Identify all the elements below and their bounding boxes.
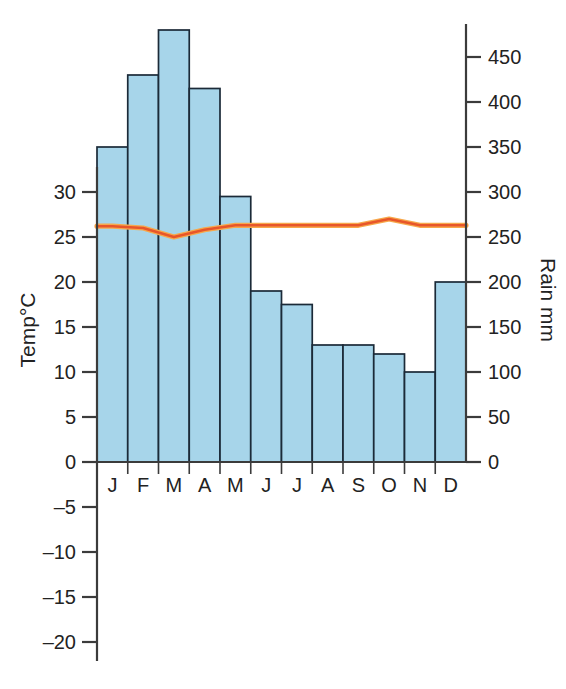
left-axis-tick-label: 10 [54, 361, 76, 383]
month-label: A [198, 474, 212, 496]
month-label: N [413, 474, 427, 496]
rain-bar [159, 30, 190, 462]
left-axis-tick-label: –15 [43, 586, 76, 608]
rain-bar [312, 345, 343, 462]
right-axis-tick-label: 450 [488, 46, 521, 68]
rain-bar [405, 372, 436, 462]
month-label: M [166, 474, 183, 496]
left-axis-tick-label: 20 [54, 271, 76, 293]
right-axis-tick-label: 250 [488, 226, 521, 248]
left-axis-title: Temp°C [16, 293, 39, 368]
right-axis-tick-label: 300 [488, 181, 521, 203]
rain-bar [128, 75, 159, 462]
rain-bar [97, 147, 128, 462]
month-label: J [107, 474, 117, 496]
rain-bar [435, 282, 466, 462]
left-axis-tick-label: 25 [54, 226, 76, 248]
rain-bar [189, 89, 220, 463]
right-axis-tick-label: 50 [488, 406, 510, 428]
chart-canvas: 302520151050–5–10–15–20 4504003503002502… [0, 0, 566, 689]
left-axis-tick-label: –10 [43, 541, 76, 563]
month-label: F [137, 474, 149, 496]
rain-bar [251, 291, 282, 462]
month-label: S [352, 474, 365, 496]
month-label: A [321, 474, 335, 496]
left-axis-tick-label: 5 [65, 406, 76, 428]
left-axis-tick-label: –5 [54, 496, 76, 518]
right-axis-tick-label: 100 [488, 361, 521, 383]
right-axis-tick-label: 0 [488, 451, 499, 473]
month-label: D [443, 474, 457, 496]
month-label: J [261, 474, 271, 496]
rain-bar [374, 354, 405, 462]
month-label: M [227, 474, 244, 496]
month-label: J [292, 474, 302, 496]
right-axis-tick-label: 350 [488, 136, 521, 158]
left-axis-tick-label: –20 [43, 631, 76, 653]
right-axis-title: Rain mm [537, 258, 560, 342]
right-axis-tick-label: 400 [488, 91, 521, 113]
rain-bar [220, 197, 251, 463]
right-axis-tick-label: 200 [488, 271, 521, 293]
month-label: O [381, 474, 397, 496]
left-axis-tick-label: 30 [54, 181, 76, 203]
left-axis-tick-label: 0 [65, 451, 76, 473]
climograph-chart: 302520151050–5–10–15–20 4504003503002502… [0, 0, 566, 689]
rain-bar [343, 345, 374, 462]
left-axis-tick-label: 15 [54, 316, 76, 338]
rain-bar [282, 305, 313, 463]
right-axis-tick-label: 150 [488, 316, 521, 338]
